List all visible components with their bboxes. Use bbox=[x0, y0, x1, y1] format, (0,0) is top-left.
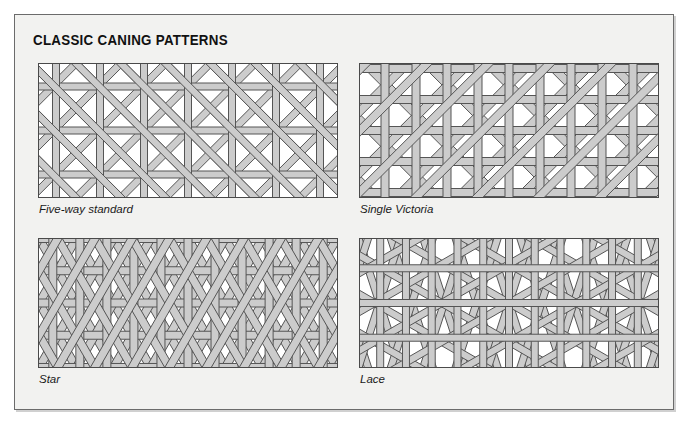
page-title: CLASSIC CANING PATTERNS bbox=[33, 32, 228, 48]
pattern-panel bbox=[38, 63, 338, 198]
pattern-swatch-star: Star bbox=[38, 238, 338, 368]
pattern-caption: Single Victoria bbox=[360, 203, 433, 215]
illustration-plate: CLASSIC CANING PATTERNS Five-way standar… bbox=[14, 14, 674, 410]
pattern-panel bbox=[359, 63, 659, 198]
pattern-panel bbox=[38, 238, 338, 368]
pattern-swatch-five-way-standard: Five-way standard bbox=[38, 63, 338, 198]
pattern-swatch-single-victoria: Single Victoria bbox=[359, 63, 659, 198]
pattern-swatch-lace: Lace bbox=[359, 238, 659, 368]
pattern-caption: Star bbox=[39, 373, 60, 385]
pattern-caption: Lace bbox=[360, 373, 385, 385]
pattern-caption: Five-way standard bbox=[39, 203, 133, 215]
pattern-panel bbox=[359, 238, 659, 368]
